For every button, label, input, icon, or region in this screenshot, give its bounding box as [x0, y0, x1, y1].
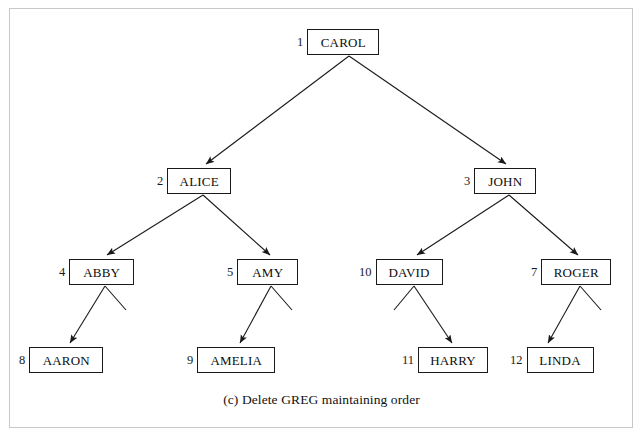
- tree-node-aaron[interactable]: 8 AARON: [19, 347, 103, 373]
- node-box-roger[interactable]: ROGER: [541, 259, 611, 285]
- tree-node-carol[interactable]: 1 CAROL: [297, 29, 379, 55]
- node-label-david: DAVID: [388, 266, 429, 279]
- node-index-aaron: 8: [19, 354, 29, 367]
- node-label-amy: AMY: [252, 266, 283, 279]
- node-box-david[interactable]: DAVID: [376, 259, 443, 285]
- tree-node-linda[interactable]: 12 LINDA: [510, 347, 594, 373]
- edge-david-null-left: [394, 286, 414, 310]
- edge-abby-aaron: [70, 286, 105, 343]
- node-label-harry: HARRY: [430, 354, 476, 367]
- node-index-carol: 1: [297, 36, 307, 49]
- tree-node-amy[interactable]: 5 AMY: [227, 259, 298, 285]
- node-index-alice: 2: [157, 175, 167, 188]
- edge-roger-linda: [548, 286, 580, 343]
- tree-node-alice[interactable]: 2 ALICE: [157, 168, 231, 194]
- node-box-alice[interactable]: ALICE: [167, 168, 231, 194]
- node-label-linda: LINDA: [539, 354, 580, 367]
- tree-node-harry[interactable]: 11 HARRY: [402, 347, 488, 373]
- tree-node-amelia[interactable]: 9 AMELIA: [187, 347, 275, 373]
- edge-david-harry: [414, 286, 452, 343]
- node-index-linda: 12: [510, 354, 527, 367]
- tree-node-abby[interactable]: 4 ABBY: [59, 259, 134, 285]
- edge-carol-alice: [206, 56, 349, 164]
- node-label-aaron: AARON: [43, 354, 90, 367]
- node-label-carol: CAROL: [321, 36, 366, 49]
- node-index-abby: 4: [59, 266, 69, 279]
- node-label-roger: ROGER: [554, 266, 599, 279]
- node-box-carol[interactable]: CAROL: [307, 29, 379, 55]
- edge-roger-null-right: [580, 286, 601, 310]
- node-box-aaron[interactable]: AARON: [29, 347, 103, 373]
- edge-amy-amelia: [240, 286, 271, 343]
- figure-caption: (c) Delete GREG maintaining order: [0, 392, 643, 408]
- node-box-linda[interactable]: LINDA: [527, 347, 594, 373]
- node-label-amelia: AMELIA: [210, 354, 262, 367]
- edge-abby-null-right: [105, 286, 126, 310]
- node-index-amy: 5: [227, 266, 237, 279]
- tree-figure: 1 CAROL 2 ALICE 3 JOHN 4 ABBY 5 AMY 10 D…: [0, 0, 643, 438]
- edge-john-david: [417, 195, 509, 255]
- node-index-john: 3: [464, 175, 474, 188]
- edge-amy-null-right: [271, 286, 292, 310]
- edge-alice-abby: [107, 195, 203, 255]
- node-label-alice: ALICE: [180, 175, 219, 188]
- tree-node-david[interactable]: 10 DAVID: [359, 259, 443, 285]
- node-box-harry[interactable]: HARRY: [418, 347, 488, 373]
- tree-node-john[interactable]: 3 JOHN: [464, 168, 536, 194]
- edge-carol-john: [349, 56, 506, 164]
- node-label-abby: ABBY: [83, 266, 120, 279]
- node-box-amy[interactable]: AMY: [237, 259, 298, 285]
- node-box-amelia[interactable]: AMELIA: [197, 347, 275, 373]
- node-label-john: JOHN: [488, 175, 522, 188]
- node-index-amelia: 9: [187, 354, 197, 367]
- node-index-david: 10: [359, 266, 376, 279]
- edge-alice-amy: [203, 195, 270, 255]
- node-box-john[interactable]: JOHN: [474, 168, 536, 194]
- tree-node-roger[interactable]: 7 ROGER: [531, 259, 611, 285]
- edge-john-roger: [509, 195, 578, 255]
- node-box-abby[interactable]: ABBY: [69, 259, 134, 285]
- node-index-roger: 7: [531, 266, 541, 279]
- node-index-harry: 11: [402, 354, 418, 367]
